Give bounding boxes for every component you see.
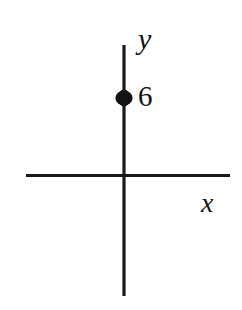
point-marker-core [118, 90, 130, 107]
coordinate-axes-figure: y x 6 [0, 0, 242, 310]
point-value-label: 6 [138, 82, 153, 111]
x-axis-label: x [201, 189, 213, 217]
y-axis-label: y [138, 24, 151, 54]
axes-drawing [0, 0, 242, 310]
point-marker-group [115, 90, 132, 107]
